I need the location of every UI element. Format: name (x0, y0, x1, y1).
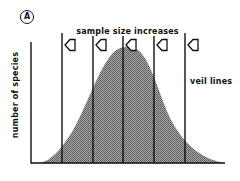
panel-label: A (20, 10, 34, 24)
arrow-left-icon (188, 40, 198, 51)
veil-lines-label: veil lines (190, 77, 232, 86)
arrow-left-icon (157, 40, 167, 51)
arrow-left-icon (96, 40, 106, 51)
arrow-left-icon (65, 40, 75, 51)
species-distribution-curve (40, 47, 224, 163)
y-axis-label: number of species (11, 52, 20, 138)
veil-line-diagram: A sample size increases veil lines numbe… (0, 0, 240, 181)
diagram-title: sample size increases (70, 27, 185, 36)
